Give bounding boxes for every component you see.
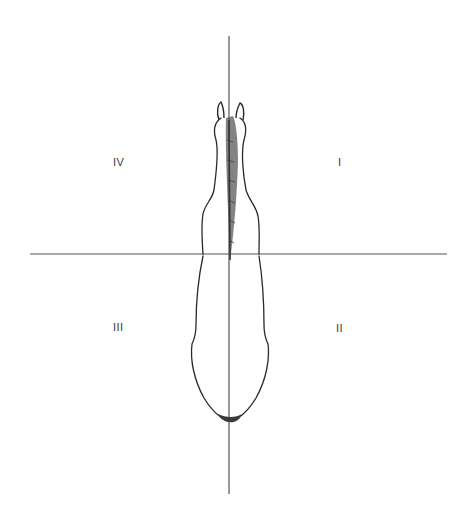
quadrant-label-iv: IV [113,156,124,168]
tail-icon [218,414,242,422]
quadrant-label-ii: II [336,322,343,334]
mane-icon [226,116,238,262]
horse-body-outline [192,256,269,418]
quadrant-label-i: I [338,156,342,168]
quadrant-label-iii: III [113,321,124,333]
horse-drawing [0,0,471,520]
quadrant-diagram: IV I III II [0,0,471,520]
